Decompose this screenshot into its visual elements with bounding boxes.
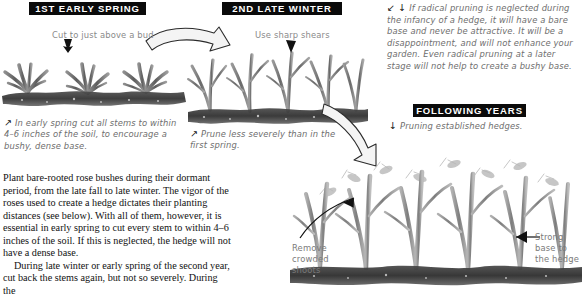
note-radical-pruning: ↙ ↓ If radical pruning is neglected duri… <box>387 2 578 73</box>
caption-panel-one: ↗ In early spring cut all stems to withi… <box>4 117 182 152</box>
caption-panel-two: ↗ Prune less severely than in the first … <box>190 128 340 152</box>
body-text: Plant bare-rooted rose bushes during the… <box>3 172 231 297</box>
label-strong-base: Strong base to the hedge <box>535 232 581 265</box>
section-header-following-years: FOLLOWING YEARS <box>413 104 526 117</box>
body-paragraph-two: During late winter or early spring of th… <box>3 260 231 297</box>
caption-marker-icon: ↗ <box>4 117 12 128</box>
note-marker-icon: ↙ ↓ <box>387 2 406 13</box>
label-use-sharp-shears: Use sharp shears <box>255 30 365 41</box>
caption-panel-two-text: Prune less severely than in the first sp… <box>190 129 335 150</box>
label-cut-above-bud: Cut to just above a bud <box>52 30 182 41</box>
caption-panel-three-text: Pruning established hedges. <box>400 121 523 131</box>
label-remove-crowded-shoots: Remove crowded shoots <box>292 243 350 276</box>
body-paragraph-one: Plant bare-rooted rose bushes during the… <box>3 172 231 260</box>
note-radical-pruning-text: If radical pruning is neglected during t… <box>387 3 573 71</box>
section-header-second-late-winter: 2ND LATE WINTER <box>222 2 342 15</box>
caption-panel-three: ↓ Pruning established hedges. <box>389 120 569 132</box>
caption-marker-icon: ↗ <box>190 128 198 139</box>
leader-arrow-icon <box>288 176 398 246</box>
section-header-first-early-spring: 1ST EARLY SPRING <box>29 2 146 15</box>
caption-marker-icon: ↓ <box>389 120 397 131</box>
caption-panel-one-text: In early spring cut all stems to within … <box>4 118 176 151</box>
